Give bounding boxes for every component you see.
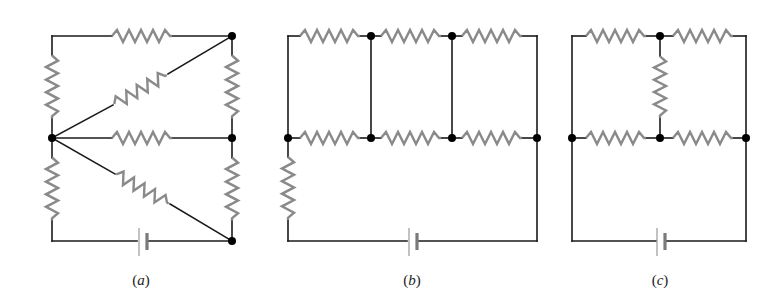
circuit-a-wires	[52, 36, 232, 241]
junction-node	[228, 134, 236, 142]
battery-icon	[409, 228, 417, 256]
junction-node	[656, 32, 664, 40]
resistor-icon	[654, 56, 666, 117]
resistor-icon	[113, 169, 171, 209]
junction-node	[448, 32, 456, 40]
resistor-icon	[586, 132, 646, 144]
circuit-figure	[0, 0, 783, 306]
resistor-icon	[112, 132, 172, 144]
panel-letter-b: b	[408, 272, 416, 288]
junction-node	[228, 32, 236, 40]
panel-label-c: (c)	[652, 272, 669, 289]
resistor-icon	[226, 158, 238, 221]
resistor-icon	[226, 56, 238, 119]
resistor-icon	[586, 30, 646, 42]
junction-node	[48, 134, 56, 142]
resistor-icon	[46, 56, 58, 119]
junction-node	[284, 134, 292, 142]
resistor-icon	[673, 30, 733, 42]
junction-node	[367, 32, 375, 40]
circuit-b	[282, 30, 541, 256]
resistor-icon	[381, 30, 441, 42]
resistor-icon	[381, 132, 441, 144]
resistor-icon	[112, 30, 172, 42]
circuit-c	[568, 30, 750, 256]
resistor-icon	[300, 132, 360, 144]
resistor-icon	[282, 157, 294, 220]
resistor-icon	[462, 30, 522, 42]
junction-node	[448, 134, 456, 142]
resistor-icon	[111, 70, 169, 110]
battery-icon	[657, 228, 665, 256]
panel-letter-c: c	[657, 272, 664, 288]
junction-node	[656, 134, 664, 142]
circuit-a	[46, 30, 238, 256]
junction-node	[533, 134, 541, 142]
junction-node	[742, 134, 750, 142]
junction-node	[367, 134, 375, 142]
panel-letter-a: a	[137, 272, 145, 288]
junction-node	[568, 134, 576, 142]
junction-node	[228, 237, 236, 245]
resistor-icon	[462, 132, 522, 144]
resistor-icon	[300, 30, 360, 42]
resistor-icon	[46, 158, 58, 221]
resistor-icon	[673, 132, 733, 144]
battery-icon	[139, 228, 147, 256]
panel-label-b: (b)	[403, 272, 421, 289]
panel-label-a: (a)	[132, 272, 150, 289]
